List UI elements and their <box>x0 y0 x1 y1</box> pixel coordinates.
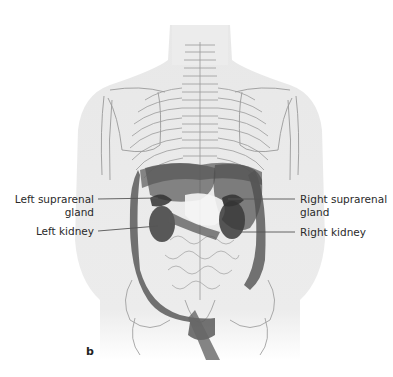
anatomy-figure <box>0 0 393 377</box>
label-left-kidney: Left kidney <box>4 225 94 238</box>
label-left-suprarenal-gland: Left suprarenal gland <box>4 193 94 219</box>
label-right-suprarenal-gland: Right suprarenal gland <box>300 193 387 219</box>
label-left-suprarenal-line2: gland <box>65 206 94 218</box>
label-right-kidney-text: Right kidney <box>300 226 366 238</box>
label-right-suprarenal-line1: Right suprarenal <box>300 193 387 205</box>
label-left-suprarenal-line1: Left suprarenal <box>15 193 94 205</box>
label-right-kidney: Right kidney <box>300 226 366 239</box>
left-kidney-shape <box>149 206 175 242</box>
right-kidney-shape <box>219 201 245 239</box>
label-left-kidney-text: Left kidney <box>36 225 94 237</box>
label-right-suprarenal-line2: gland <box>300 206 329 218</box>
panel-letter: b <box>86 345 94 358</box>
